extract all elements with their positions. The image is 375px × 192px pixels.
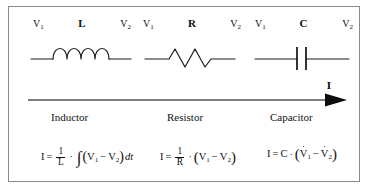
equations-row: I = 1 L · ∫ ( V1 − V2 ) dt I = [27,147,351,181]
capacitor-eq-close-paren: ) [332,147,337,162]
inductor-left-terminal-label: V1 [33,19,44,31]
resistor-eq-v1: V1 [199,152,210,164]
circuit-element-equations-figure: V1 L V2 V1 R V2 [0,0,375,192]
capacitor-eq-operator: · [289,150,292,160]
current-direction-arrow-icon [27,92,351,108]
resistor-right-terminal-label: V2 [230,19,241,31]
resistor-eq-operator: · [188,152,191,162]
resistor-equation: I = 1 R · ( V1 − V2 ) [160,147,236,168]
inductor-eq-v1: V1 [87,152,98,164]
resistor-eq-minus: − [212,152,218,163]
inductor-right-terminal-label: V2 [120,19,131,31]
resistor-letter-label: R [188,18,196,29]
capacitor-eq-equals: = [273,149,279,160]
resistor-eq-lhs: I [160,152,164,163]
inductor-eq-operator: · [69,152,72,162]
resistor-eq-equals: = [166,152,172,163]
integral-sign: ∫ [77,151,82,165]
resistor-eq-close-paren: ) [231,150,236,165]
resistor-symbol-cell: V1 R V2 [137,19,247,71]
resistor-eq-v2: V2 [220,152,231,164]
capacitor-eq-lhs: I [267,149,271,160]
capacitor-letter-label: C [299,18,307,29]
capacitor-left-terminal-label: V1 [255,19,266,31]
figure-border: V1 L V2 V1 R V2 [8,6,360,182]
current-label: I [327,80,331,91]
component-names-row: Inductor Resistor Capacitor [27,111,351,129]
capacitor-eq-minus: − [313,149,319,160]
inductor-eq-fraction: 1 L [56,147,65,168]
inductor-eq-numerator: 1 [58,147,65,157]
inductor-coil-icon [27,37,137,71]
capacitor-eq-v1-dot: V1 [300,149,311,161]
inductor-eq-v2: V2 [108,152,119,164]
resistor-eq-denominator: R [176,158,184,168]
inductor-eq-denominator: L [57,158,65,168]
capacitor-right-terminal-label: V2 [342,19,353,31]
inductor-eq-lhs: I [41,152,45,163]
inductor-eq-differential: dt [125,152,133,163]
inductor-name-label: Inductor [51,111,88,123]
resistor-eq-fraction: 1 R [175,147,184,168]
capacitor-eq-v2-dot: V2 [321,149,332,161]
current-arrow-row: I [27,83,351,109]
capacitor-plates-icon [249,37,359,71]
capacitor-equation: I = C · ( V1 − V2 ) [267,147,337,162]
resistor-zigzag-icon [137,37,247,71]
inductor-equation: I = 1 L · ∫ ( V1 − V2 ) dt [41,147,133,168]
capacitor-eq-coefficient: C [280,149,287,160]
resistor-eq-numerator: 1 [177,147,184,157]
inductor-eq-minus: − [100,152,106,163]
resistor-name-label: Resistor [167,111,203,123]
inductor-letter-label: L [78,18,85,29]
inductor-eq-equals: = [47,152,53,163]
inductor-symbol-cell: V1 L V2 [27,19,137,71]
inductor-eq-close-paren: ) [119,150,124,164]
capacitor-name-label: Capacitor [270,111,313,123]
resistor-left-terminal-label: V1 [143,19,154,31]
capacitor-symbol-cell: V1 C V2 [249,19,359,71]
